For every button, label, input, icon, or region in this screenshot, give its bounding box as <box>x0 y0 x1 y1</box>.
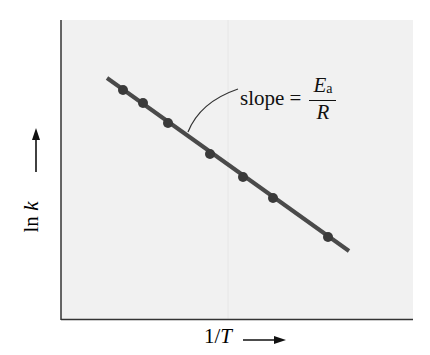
y-axis-label-text: ln k <box>19 202 44 233</box>
x-axis-label: 1/T <box>204 324 232 349</box>
fraction-numerator: Ea <box>309 74 336 100</box>
data-point <box>163 118 173 128</box>
data-point <box>118 85 128 95</box>
y-axis-label: ln k <box>16 182 46 252</box>
x-axis-label-text: 1/T <box>204 324 232 348</box>
annotation-leader <box>188 89 238 132</box>
data-point <box>268 193 278 203</box>
x-axis-arrow-icon <box>243 336 286 344</box>
slope-annotation: slope = Ea R <box>240 74 336 123</box>
chart-canvas <box>0 0 430 355</box>
data-point <box>323 232 333 242</box>
fraction-denominator: R <box>317 101 330 123</box>
slope-label: slope = <box>240 86 301 111</box>
data-point <box>205 149 215 159</box>
data-point <box>238 172 248 182</box>
slope-fraction: Ea R <box>309 74 336 123</box>
data-point <box>138 98 148 108</box>
y-axis-arrow-icon <box>32 128 40 172</box>
